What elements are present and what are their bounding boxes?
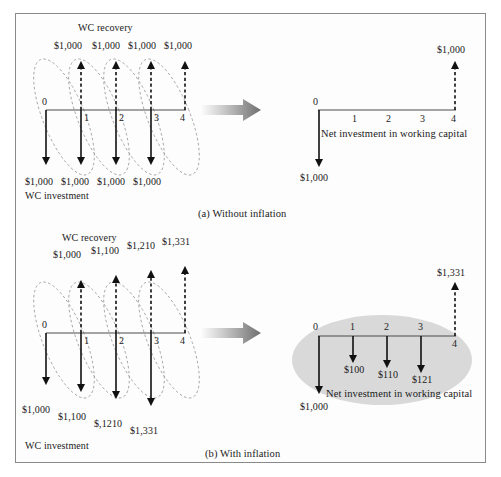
transition-arrow-a bbox=[200, 99, 261, 121]
panel-a-left-tick-2: 2 bbox=[119, 112, 124, 123]
panel-b-right-note: Net investment in working capital bbox=[326, 388, 472, 399]
panel-b-left-bottom-label: WC investment bbox=[25, 440, 89, 451]
panel-a-left-outflow-arrows bbox=[46, 110, 151, 163]
panel-a-right-tick-1: 1 bbox=[352, 113, 357, 124]
panel-b-right-tick-3: 3 bbox=[418, 321, 423, 332]
panel-a-left-recovery-value-1: $1,000 bbox=[54, 40, 82, 51]
panel-a-left-investment-value-3: $1,000 bbox=[97, 176, 125, 187]
panel-a-left-recovery-value-3: $1,000 bbox=[128, 40, 156, 51]
panel-b-left-investment-value-1: $1,000 bbox=[22, 404, 50, 415]
panel-b-right-net-outflow-1: $100 bbox=[344, 364, 364, 375]
panel-b-right-net-outflow-3: $121 bbox=[412, 374, 432, 385]
caption-a: (a) Without inflation bbox=[198, 208, 286, 219]
panel-a-left-bottom-label: WC investment bbox=[25, 190, 89, 201]
panel-a-right-tick-2: 2 bbox=[386, 113, 391, 124]
panel-a-right-tick-4: 4 bbox=[451, 113, 456, 124]
panel-b-right-net-outflow-2: $110 bbox=[378, 369, 398, 380]
panel-b-right-tick-1: 1 bbox=[350, 321, 355, 332]
panel-a-left-top-label: WC recovery bbox=[78, 22, 133, 33]
panel-b-left-tick-4: 4 bbox=[180, 335, 185, 346]
panel-b-left-top-label: WC recovery bbox=[62, 232, 117, 243]
panel-a-right-note: Net investment in working capital bbox=[321, 128, 467, 139]
panel-a-left-inflow-arrows bbox=[81, 63, 185, 110]
panel-b-left-investment-value-4: $1,331 bbox=[130, 425, 158, 436]
panel-b-left-recovery-value-2: $1,100 bbox=[91, 245, 119, 256]
panel-b-left-inflow-arrows bbox=[81, 268, 185, 333]
panel-b-left-tick-1: 1 bbox=[84, 335, 89, 346]
panel-a-left-investment-value-1: $1,000 bbox=[25, 176, 53, 187]
panel-a-left-tick-1: 1 bbox=[84, 112, 89, 123]
panel-a-right-tick-0: 0 bbox=[313, 96, 318, 107]
panel-b-left-tick-0: 0 bbox=[42, 319, 47, 330]
panel-b-left-outflow-arrows bbox=[46, 333, 151, 404]
panel-a-left-tick-3: 3 bbox=[154, 112, 159, 123]
caption-b: (b) With inflation bbox=[205, 448, 280, 459]
panel-b-left-tick-2: 2 bbox=[119, 335, 124, 346]
panel-a-left-recovery-value-2: $1,000 bbox=[92, 40, 120, 51]
transition-arrow-b bbox=[200, 322, 261, 344]
panel-a-right-tick-3: 3 bbox=[420, 113, 425, 124]
panel-b-right-tick-2: 2 bbox=[384, 321, 389, 332]
panel-b-left-tick-3: 3 bbox=[154, 335, 159, 346]
panel-b-left-recovery-value-3: $1,210 bbox=[127, 240, 155, 251]
panel-a-left-recovery-value-4: $1,000 bbox=[164, 40, 192, 51]
panel-b-left-recovery-value-1: $1,000 bbox=[53, 249, 81, 260]
panel-a-left-tick-4: 4 bbox=[180, 112, 185, 123]
panel-a-left-investment-value-4: $1,000 bbox=[133, 176, 161, 187]
panel-b-left-investment-value-3: $,1210 bbox=[94, 418, 122, 429]
panel-a-right-outflow-value: $1,000 bbox=[300, 172, 328, 183]
panel-a-left-investment-value-2: $1,000 bbox=[61, 176, 89, 187]
figure-root: WC recovery $1,000 $1,000 $1,000 $1,000 … bbox=[0, 0, 501, 477]
panel-a-right-inflow-value: $1,000 bbox=[437, 44, 465, 55]
panel-a-left-tick-0: 0 bbox=[42, 96, 47, 107]
panel-b-left-recovery-value-4: $1,331 bbox=[162, 236, 190, 247]
panel-b-right-outflow-value: $1,000 bbox=[300, 401, 328, 412]
panel-b-right-inflow-value: $1,331 bbox=[437, 267, 465, 278]
panel-b-left-investment-value-2: $1,100 bbox=[58, 411, 86, 422]
panel-b-right-tick-0: 0 bbox=[313, 321, 318, 332]
panel-b-right-tick-4: 4 bbox=[452, 338, 457, 349]
